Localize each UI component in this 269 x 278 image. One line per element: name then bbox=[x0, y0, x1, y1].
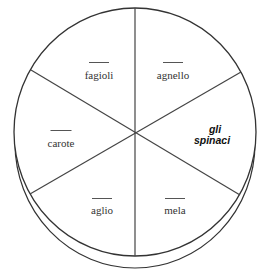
answer-blank-aglio[interactable] bbox=[92, 198, 112, 199]
label-aglio: aglio bbox=[91, 204, 113, 216]
answer-blank-fagioli[interactable] bbox=[89, 62, 109, 63]
label-spinaci: spinaci bbox=[194, 135, 230, 146]
label-carote: carote bbox=[48, 137, 75, 149]
answer-blank-carote[interactable] bbox=[51, 130, 72, 131]
label-agnello: agnello bbox=[157, 69, 189, 81]
answer-blank-mela[interactable] bbox=[165, 198, 185, 199]
label-mela: mela bbox=[164, 204, 185, 216]
plate-diagram: fagioli agnello carote gli spinaci aglio… bbox=[0, 0, 269, 278]
answer-blank-agnello[interactable] bbox=[163, 62, 183, 63]
label-fagioli: fagioli bbox=[85, 69, 114, 81]
